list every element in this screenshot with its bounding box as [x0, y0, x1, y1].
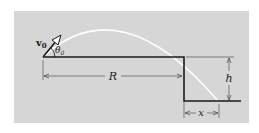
velocity-label: v0	[35, 37, 47, 50]
height-label: h	[225, 72, 232, 85]
angle-label: θ0	[55, 45, 64, 56]
distance-label: x	[198, 107, 204, 118]
trajectory-curve	[43, 30, 218, 101]
range-label: R	[108, 70, 117, 83]
projectile-diagram: v0 θ0 R h x	[0, 0, 259, 133]
